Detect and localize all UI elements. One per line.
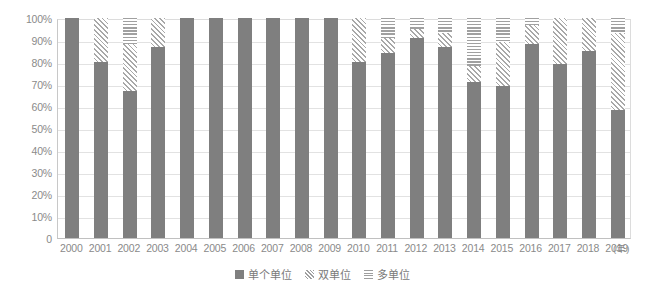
- bar-2008[interactable]: [295, 18, 309, 238]
- bar-segment-diagonal-hatch: [467, 66, 481, 81]
- bar-segment-diagonal-hatch: [381, 38, 395, 53]
- x-axis-tick-label: 2009: [318, 242, 341, 255]
- y-axis-tick-label: 100%: [0, 14, 52, 24]
- x-axis-tick-label: 2016: [519, 242, 542, 255]
- x-axis-tick-label: 2010: [347, 242, 370, 255]
- x-axis-tick-label: 2015: [491, 242, 514, 255]
- bar-segment-solid: [611, 110, 625, 238]
- bar-segment-horizontal-hatch: [123, 18, 137, 44]
- x-axis-tick-label: 2008: [290, 242, 313, 255]
- bar-2015[interactable]: [496, 18, 510, 238]
- bar-segment-solid: [65, 18, 79, 238]
- y-axis-tick-label: 70%: [0, 80, 52, 90]
- bar-2017[interactable]: [553, 18, 567, 238]
- y-axis-tick-label: 0: [0, 234, 52, 244]
- y-axis-tick-label: 80%: [0, 58, 52, 68]
- bar-segment-diagonal-hatch: [553, 18, 567, 64]
- bar-segment-diagonal-hatch: [438, 33, 452, 46]
- legend-item-label: 单个单位: [248, 266, 292, 282]
- bar-segment-solid: [123, 91, 137, 238]
- bar-segment-solid: [151, 47, 165, 238]
- y-axis-tick-label: 20%: [0, 190, 52, 200]
- y-axis-tick-label: 40%: [0, 146, 52, 156]
- bar-segment-diagonal-hatch: [496, 42, 510, 86]
- x-axis-tick-label: 2014: [462, 242, 485, 255]
- bar-segment-diagonal-hatch: [94, 18, 108, 62]
- bar-segment-solid: [238, 18, 252, 238]
- bar-segment-solid: [467, 82, 481, 238]
- x-axis-tick-label: 2000: [60, 242, 83, 255]
- bar-2014[interactable]: [467, 18, 481, 238]
- x-axis-tick-label: 2001: [89, 242, 112, 255]
- bar-segment-diagonal-hatch: [123, 44, 137, 90]
- bar-segment-horizontal-hatch: [611, 18, 625, 33]
- bar-segment-solid: [352, 62, 366, 238]
- bar-segment-solid: [94, 62, 108, 238]
- bar-segment-diagonal-hatch: [352, 18, 366, 62]
- legend-item-label: 多单位: [377, 266, 410, 282]
- legend-item-1[interactable]: 双单位: [305, 266, 351, 282]
- bar-segment-solid: [496, 86, 510, 238]
- chart-legend: 单个单位双单位多单位: [0, 266, 645, 282]
- x-axis-tick-label: 2006: [232, 242, 255, 255]
- bar-series-group: [58, 20, 630, 238]
- x-axis-tick-label: 2004: [175, 242, 198, 255]
- horizontal-hatch-square-icon: [364, 270, 373, 279]
- bar-segment-horizontal-hatch: [525, 18, 539, 25]
- bar-2013[interactable]: [438, 18, 452, 238]
- bar-segment-horizontal-hatch: [381, 18, 395, 38]
- bar-2016[interactable]: [525, 18, 539, 238]
- x-axis-unit-label: (年): [613, 242, 629, 255]
- bar-2003[interactable]: [151, 18, 165, 238]
- bar-2012[interactable]: [410, 18, 424, 238]
- bar-segment-solid: [525, 44, 539, 238]
- legend-item-label: 双单位: [318, 266, 351, 282]
- x-axis-tick-label: 2003: [146, 242, 169, 255]
- stacked-bar-chart: 010%20%30%40%50%60%70%80%90%100% 2000200…: [0, 0, 645, 290]
- bar-segment-solid: [180, 18, 194, 238]
- bar-segment-solid: [438, 47, 452, 238]
- bar-segment-solid: [381, 53, 395, 238]
- bar-2000[interactable]: [65, 18, 79, 238]
- legend-item-0[interactable]: 单个单位: [235, 266, 292, 282]
- bar-2011[interactable]: [381, 18, 395, 238]
- diagonal-hatch-square-icon: [305, 270, 314, 279]
- bar-2005[interactable]: [209, 18, 223, 238]
- x-axis: 2000200120022003200420052006200720082009…: [57, 242, 631, 258]
- bar-segment-diagonal-hatch: [525, 25, 539, 45]
- x-axis-tick-label: 2002: [117, 242, 140, 255]
- bar-segment-diagonal-hatch: [611, 33, 625, 110]
- bar-2010[interactable]: [352, 18, 366, 238]
- legend-item-2[interactable]: 多单位: [364, 266, 410, 282]
- x-axis-tick-label: 2018: [577, 242, 600, 255]
- bar-2006[interactable]: [238, 18, 252, 238]
- bar-segment-diagonal-hatch: [410, 29, 424, 38]
- bar-2001[interactable]: [94, 18, 108, 238]
- bar-segment-solid: [209, 18, 223, 238]
- x-axis-tick-label: 2007: [261, 242, 284, 255]
- bar-segment-solid: [266, 18, 280, 238]
- bar-segment-solid: [553, 64, 567, 238]
- x-axis-tick-label: 2012: [404, 242, 427, 255]
- x-axis-tick-label: 2017: [548, 242, 571, 255]
- bar-2018[interactable]: [582, 18, 596, 238]
- bar-segment-solid: [410, 38, 424, 238]
- bar-segment-diagonal-hatch: [151, 18, 165, 47]
- bar-segment-solid: [295, 18, 309, 238]
- bar-2009[interactable]: [324, 18, 338, 238]
- x-axis-tick-label: 2011: [376, 242, 398, 255]
- plot-area: [57, 19, 631, 239]
- y-axis-tick-label: 10%: [0, 212, 52, 222]
- bar-2004[interactable]: [180, 18, 194, 238]
- y-axis: 010%20%30%40%50%60%70%80%90%100%: [0, 19, 52, 239]
- bar-2002[interactable]: [123, 18, 137, 238]
- bar-2019[interactable]: [611, 18, 625, 238]
- y-axis-tick-label: 90%: [0, 36, 52, 46]
- x-axis-tick-label: 2005: [204, 242, 227, 255]
- bar-segment-horizontal-hatch: [410, 18, 424, 29]
- y-axis-tick-label: 30%: [0, 168, 52, 178]
- bar-segment-solid: [582, 51, 596, 238]
- y-axis-tick-label: 60%: [0, 102, 52, 112]
- bar-segment-diagonal-hatch: [582, 18, 596, 51]
- bar-2007[interactable]: [266, 18, 280, 238]
